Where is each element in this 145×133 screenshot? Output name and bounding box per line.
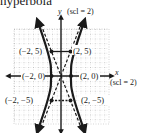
vertex-neg2-0 (50, 74, 54, 78)
label-vertex-2-0: (2, 0) (80, 71, 99, 81)
label-point-2-neg5: (2, −5) (81, 95, 104, 105)
label-vertex-neg2-0: (−2, 0) (22, 71, 45, 81)
label-point-neg2-5: (−2, 5) (19, 46, 42, 56)
point-2-5 (69, 50, 73, 54)
x-axis-label: x (114, 68, 119, 77)
point-neg2-neg5 (50, 99, 54, 103)
y-axis-label: y (57, 7, 62, 16)
x-axis-scale-note: (scl = 2) (110, 78, 137, 87)
point-neg2-5 (50, 50, 54, 54)
label-point-neg2-neg5: (−2, −5) (5, 95, 33, 105)
y-axis-scale-note: (scl = 2) (67, 7, 94, 16)
vertex-2-0 (69, 74, 73, 78)
point-2-neg5 (69, 99, 73, 103)
label-point-2-5: (2, 5) (73, 46, 92, 56)
hyperbola-graph: (−2, 5) (2, 5) (−2, 0) (2, 0) (−2, −5) (… (0, 0, 145, 133)
